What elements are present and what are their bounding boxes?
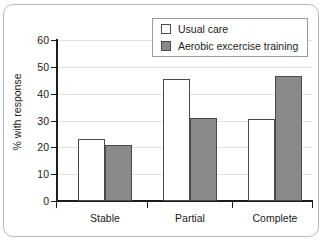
- bar-stable-aerobic-training: [105, 145, 132, 201]
- legend-label-usual-care: Usual care: [178, 24, 228, 35]
- x-category-label-complete: Complete: [238, 212, 312, 224]
- bar-partial-usual-care: [163, 79, 190, 201]
- x-tick-mark-0: [56, 202, 57, 208]
- aerobic-training-swatch-icon: [161, 41, 171, 51]
- legend-item-aerobic-training: Aerobic excercise training: [161, 39, 298, 53]
- x-tick-mark-2: [232, 202, 233, 208]
- bar-complete-aerobic-training: [275, 76, 302, 201]
- bar-chart-plot-area: 60 50 40 30 20 10 0 % with response Stab…: [0, 0, 325, 242]
- y-tick-mark-30: [51, 121, 57, 122]
- bar-stable-usual-care: [78, 139, 105, 201]
- y-tick-label-0: 0: [9, 196, 49, 206]
- y-tick-label-10: 10: [9, 169, 49, 179]
- legend-item-usual-care: Usual care: [161, 22, 228, 36]
- y-tick-mark-20: [51, 147, 57, 148]
- y-tick-mark-60: [51, 40, 57, 41]
- x-tick-mark-3: [312, 202, 313, 208]
- bar-complete-usual-care: [248, 119, 275, 201]
- y-axis-title: % with response: [11, 57, 23, 167]
- x-tick-mark-1: [147, 202, 148, 208]
- usual-care-swatch-icon: [161, 24, 171, 34]
- y-tick-mark-40: [51, 94, 57, 95]
- y-tick-label-60: 60: [9, 35, 49, 45]
- x-category-label-stable: Stable: [70, 212, 140, 224]
- y-tick-mark-10: [51, 174, 57, 175]
- chart-legend: Usual care Aerobic excercise training: [152, 18, 308, 57]
- y-tick-mark-50: [51, 67, 57, 68]
- chart-figure: 60 50 40 30 20 10 0 % with response Stab…: [0, 0, 325, 242]
- legend-label-aerobic-training: Aerobic excercise training: [178, 41, 298, 52]
- gridline-50: [57, 67, 312, 68]
- bar-partial-aerobic-training: [190, 118, 217, 201]
- x-category-label-partial: Partial: [155, 212, 225, 224]
